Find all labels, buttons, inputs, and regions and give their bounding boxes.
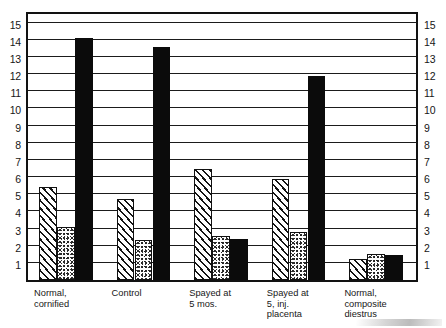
bar (349, 259, 367, 280)
bar (385, 255, 403, 280)
y-tick-left-8: 8 (15, 140, 21, 150)
bar (153, 47, 171, 280)
bar (135, 240, 153, 280)
y-tick-left-13: 13 (10, 54, 21, 64)
y-tick-left-4: 4 (15, 208, 21, 218)
bar (117, 199, 135, 280)
y-tick-left-6: 6 (15, 174, 21, 184)
bar (194, 169, 212, 280)
y-tick-left-7: 7 (15, 157, 21, 167)
plot-area (26, 12, 418, 282)
bar-group (261, 14, 339, 280)
bar-group (106, 14, 184, 280)
y-tick-right-6: 6 (424, 174, 430, 184)
x-category-label: Spayed at 5, inj. placenta (267, 288, 309, 320)
x-category-label: Normal, composite diestrus (344, 288, 386, 320)
x-category-label: Normal, cornified (34, 288, 69, 309)
y-tick-left-1: 1 (15, 260, 21, 270)
grouped-bar-chart: 123456789101112131415 123456789101112131… (0, 0, 446, 328)
y-tick-right-11: 11 (424, 88, 435, 98)
bar (272, 179, 290, 280)
y-tick-right-15: 15 (424, 20, 435, 30)
y-tick-left-10: 10 (10, 105, 21, 115)
y-tick-right-2: 2 (424, 243, 430, 253)
bar (39, 187, 57, 280)
y-tick-right-5: 5 (424, 191, 430, 201)
y-tick-right-1: 1 (424, 260, 430, 270)
bar-group (28, 14, 106, 280)
scan-artifact (356, 319, 442, 326)
y-tick-right-9: 9 (424, 123, 430, 133)
y-tick-right-12: 12 (424, 71, 435, 81)
bar (290, 232, 308, 280)
y-tick-right-14: 14 (424, 37, 435, 47)
bars-layer (28, 14, 416, 280)
y-tick-right-3: 3 (424, 226, 430, 236)
bar (308, 76, 326, 280)
y-tick-right-7: 7 (424, 157, 430, 167)
y-tick-right-10: 10 (424, 105, 435, 115)
y-tick-left-9: 9 (15, 123, 21, 133)
y-tick-left-14: 14 (10, 37, 21, 47)
y-tick-left-2: 2 (15, 243, 21, 253)
y-tick-left-11: 11 (11, 88, 22, 98)
y-tick-right-8: 8 (424, 140, 430, 150)
y-tick-left-5: 5 (15, 191, 21, 201)
bar (75, 38, 93, 280)
bar (230, 239, 248, 280)
bar (57, 227, 75, 280)
y-tick-right-4: 4 (424, 208, 430, 218)
y-axis-left: 123456789101112131415 (0, 12, 24, 282)
y-tick-right-13: 13 (424, 54, 435, 64)
bar-group (338, 14, 416, 280)
x-category-label: Control (112, 288, 142, 299)
bar-group (183, 14, 261, 280)
y-axis-right: 123456789101112131415 (420, 12, 444, 282)
y-tick-left-15: 15 (10, 20, 21, 30)
y-tick-left-12: 12 (10, 71, 21, 81)
bar (212, 236, 230, 280)
y-tick-left-3: 3 (15, 226, 21, 236)
x-category-label: Spayed at 5 mos. (189, 288, 231, 309)
bar (367, 254, 385, 280)
